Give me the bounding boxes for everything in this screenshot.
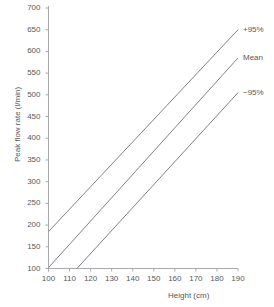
- x-tick-label: 100: [38, 275, 60, 283]
- series-label: +95%: [243, 26, 264, 34]
- x-tick-label: 140: [122, 275, 144, 283]
- x-tick-label: 150: [143, 275, 165, 283]
- x-tick-label: 160: [164, 275, 186, 283]
- y-axis-title: Peak flow rate (l/min): [13, 70, 22, 180]
- series-line: [49, 58, 239, 268]
- series-lines: [49, 30, 239, 269]
- x-tick-label: 180: [206, 275, 228, 283]
- y-tick-label: 600: [17, 47, 41, 55]
- peak-flow-rate-chart: 100150200250300350400450500550600650700 …: [0, 0, 274, 307]
- y-tick-label: 150: [17, 243, 41, 251]
- axes: [49, 6, 239, 269]
- y-tick-label: 100: [17, 265, 41, 273]
- x-tick-label: 130: [101, 275, 123, 283]
- x-tick-label: 110: [59, 275, 81, 283]
- y-tick-label: 700: [17, 4, 41, 12]
- series-line: [77, 93, 238, 269]
- series-label: Mean: [243, 54, 263, 62]
- plot-area: [0, 0, 274, 307]
- x-tick-label: 190: [227, 275, 249, 283]
- series-label: −95%: [243, 89, 264, 97]
- x-tick-label: 170: [185, 275, 207, 283]
- series-line: [49, 30, 239, 232]
- x-tick-label: 120: [80, 275, 102, 283]
- y-tick-label: 200: [17, 221, 41, 229]
- y-tick-label: 650: [17, 26, 41, 34]
- y-tick-label: 250: [17, 199, 41, 207]
- x-axis-title: Height (cm): [168, 291, 209, 300]
